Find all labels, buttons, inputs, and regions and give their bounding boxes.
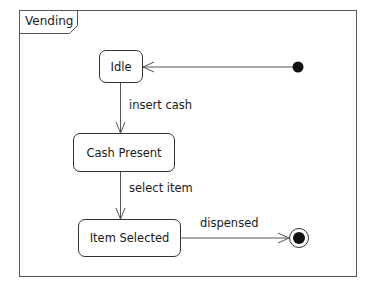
transition-label-insert-cash: insert cash: [129, 98, 192, 112]
state-label: Cash Present: [86, 146, 161, 160]
state-item-selected[interactable]: Item Selected: [78, 219, 181, 257]
final-state-inner: [293, 232, 305, 244]
state-label: Idle: [111, 60, 132, 74]
diagram-canvas: [0, 0, 371, 291]
state-idle[interactable]: Idle: [99, 50, 143, 83]
state-label: Item Selected: [90, 231, 170, 245]
transition-label-dispensed: dispensed: [200, 216, 259, 230]
initial-state[interactable]: [293, 62, 304, 73]
frame-title: Vending: [25, 14, 73, 28]
state-cash-present[interactable]: Cash Present: [73, 133, 175, 172]
transition-label-select-item: select item: [129, 181, 193, 195]
